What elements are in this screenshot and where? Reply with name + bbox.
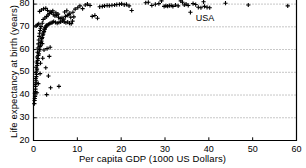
y-tick-label-70: 70 <box>14 21 30 31</box>
x-tick-label-0: 0 <box>22 144 46 154</box>
grid-lines <box>34 4 297 140</box>
annotation-usa-label: USA <box>196 13 215 23</box>
y-tick-label-20: 20 <box>14 135 30 145</box>
x-tick-label-10: 10 <box>65 144 89 154</box>
y-tick-label-50: 50 <box>14 66 30 76</box>
x-tick-label-50: 50 <box>241 144 265 154</box>
x-tick-label-30: 30 <box>153 144 177 154</box>
scatter-chart-figure: Life expectancy at birth (years) Per cap… <box>0 0 305 168</box>
x-tick-label-40: 40 <box>197 144 221 154</box>
x-tick-label-20: 20 <box>109 144 133 154</box>
x-tick-label-60: 60 <box>285 144 306 154</box>
data-point-markers <box>32 0 290 106</box>
y-tick-label-40: 40 <box>14 89 30 99</box>
x-axis-title: Per capita GDP (1000 US Dollars) <box>0 153 305 164</box>
y-tick-label-30: 30 <box>14 112 30 122</box>
y-tick-label-60: 60 <box>14 44 30 54</box>
y-tick-label-80: 80 <box>14 0 30 8</box>
